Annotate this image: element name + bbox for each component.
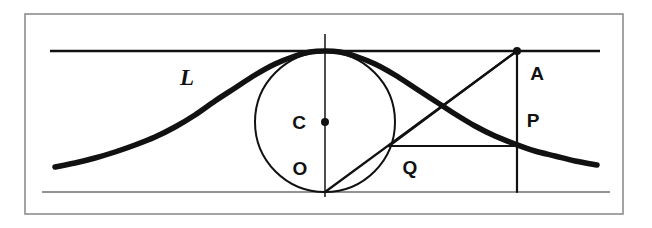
- label-point-p: P: [527, 111, 540, 130]
- geometry-figure: L C O Q A P: [0, 0, 652, 228]
- figure-canvas: [0, 0, 652, 228]
- label-curve-l: L: [180, 66, 194, 89]
- label-origin-o: O: [293, 159, 308, 178]
- label-center-c: C: [292, 113, 306, 132]
- figure-background: [0, 0, 652, 228]
- point-marker-c: [321, 118, 329, 126]
- label-point-a: A: [530, 64, 544, 83]
- label-point-q: Q: [403, 158, 418, 177]
- point-marker-a: [513, 47, 521, 55]
